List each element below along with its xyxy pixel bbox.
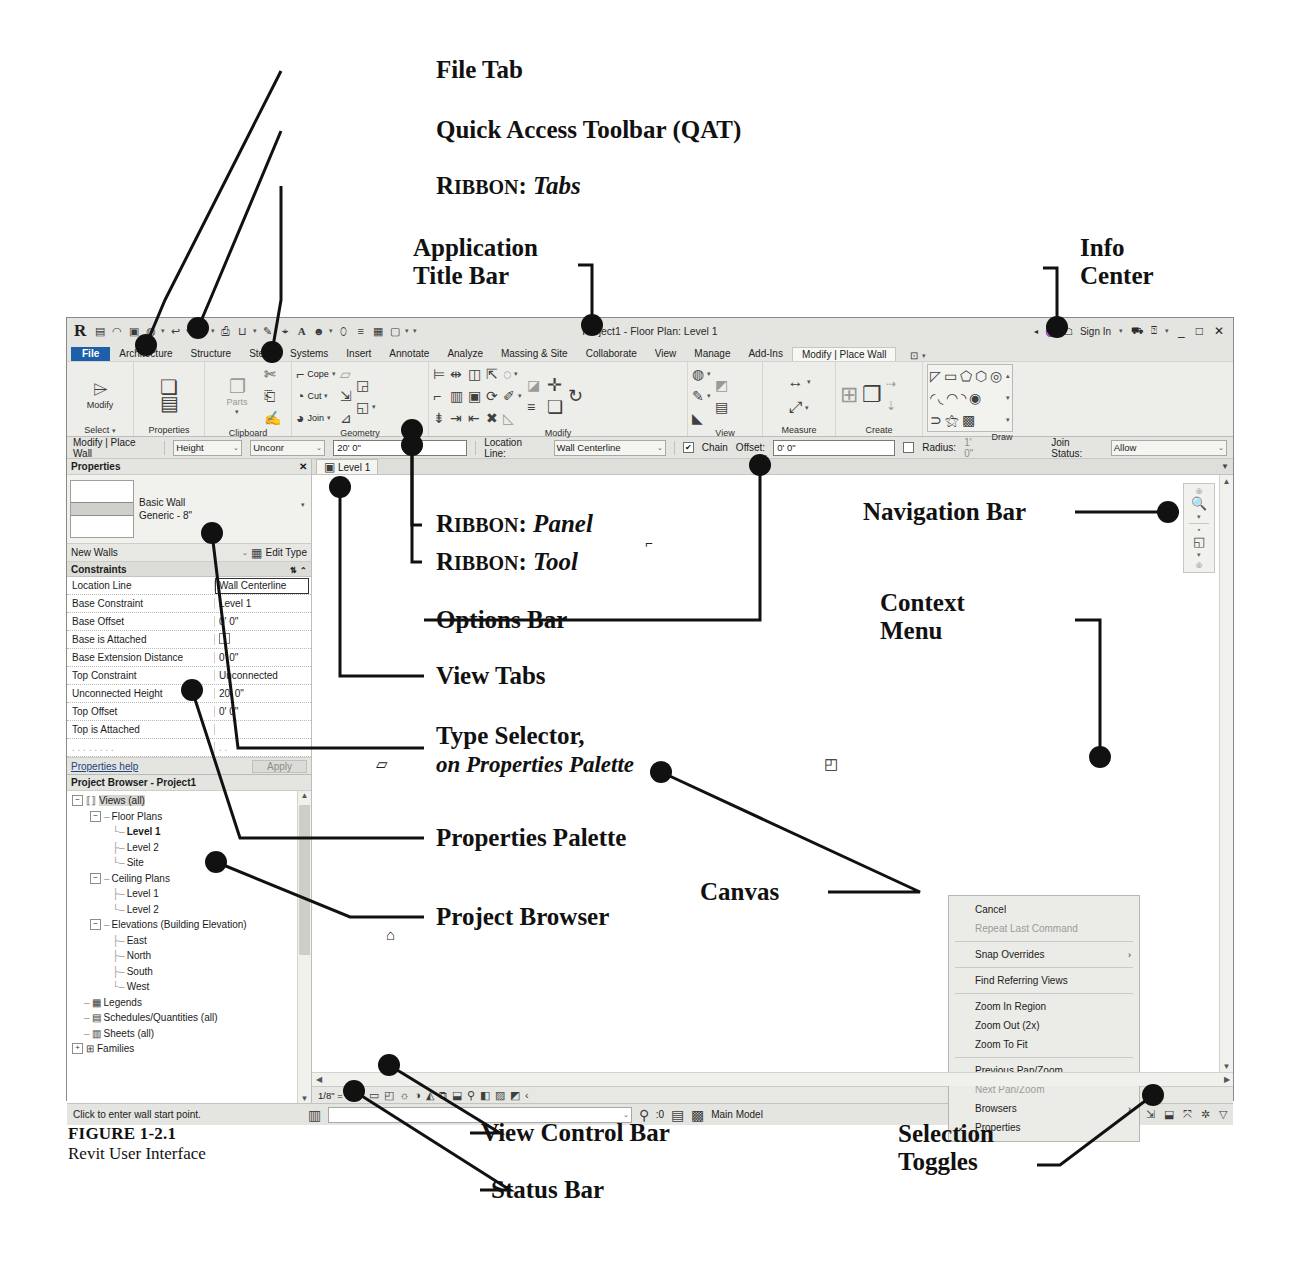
navigation-bar[interactable]: ◎ 🔍 ▾ ▪ ◱ ▾ ◎ xyxy=(1183,483,1215,573)
tab-architecture[interactable]: Architecture xyxy=(110,347,181,361)
tree-node-floor-plans[interactable]: −– Floor Plans xyxy=(70,809,311,825)
ribbon-tab-strip[interactable]: File Architecture Structure Steel System… xyxy=(67,344,1233,361)
zoom-icon[interactable]: 🔍 xyxy=(1191,497,1207,511)
wall-opening-icon[interactable]: ◺ xyxy=(503,411,514,425)
tree-node-legends[interactable]: –▦ Legends xyxy=(70,995,311,1011)
zoom-dropdown-icon[interactable]: ▾ xyxy=(1197,513,1201,521)
show-hidden-icon[interactable]: ◣ xyxy=(692,411,703,425)
sync-icon[interactable]: ⊔ xyxy=(235,324,250,339)
paint-icon[interactable]: ⊿ xyxy=(340,411,352,425)
window-buttons[interactable]: _ □ ✕ xyxy=(1178,324,1233,338)
pin-icon[interactable]: ◌ xyxy=(503,367,511,381)
measure-icon[interactable]: ✎ xyxy=(260,324,275,339)
tab-add-ins[interactable]: Add-Ins xyxy=(739,347,791,361)
property-row[interactable]: Top is Attached xyxy=(67,721,311,739)
tab-collaborate[interactable]: Collaborate xyxy=(577,347,646,361)
design-options-icon[interactable]: ▩ xyxy=(691,1108,704,1122)
tree-node-east[interactable]: ├–East xyxy=(70,933,311,949)
scroll-down-arrow[interactable]: ▼ xyxy=(298,1094,311,1103)
copy-element-icon[interactable]: ❏ xyxy=(547,400,563,414)
expander-icon[interactable]: − xyxy=(90,919,101,930)
properties-help-link[interactable]: Properties help xyxy=(71,761,138,772)
cut-scissors-icon[interactable]: ✄ xyxy=(264,367,276,381)
undo-icon[interactable]: ↩ xyxy=(168,324,183,339)
cut-geometry-icon[interactable]: ◔ xyxy=(296,389,304,403)
tab-modify-place-wall[interactable]: Modify | Place Wall xyxy=(792,347,896,361)
create-part-icon[interactable]: ⇢ xyxy=(886,377,896,391)
expander-icon[interactable]: + xyxy=(72,1043,83,1054)
expander-icon[interactable]: − xyxy=(90,811,101,822)
height-depth-select[interactable]: Height⌄ xyxy=(173,440,242,456)
lock-3d-view-icon[interactable]: ⚲ xyxy=(467,1088,475,1102)
array-icon[interactable]: ▥ xyxy=(450,389,463,403)
tab-annotate[interactable]: Annotate xyxy=(380,347,438,361)
user-avatar-icon[interactable]: ☖ xyxy=(1064,326,1073,337)
tree-node-ceiling-level-1[interactable]: ├–Level 1 xyxy=(70,886,311,902)
tab-structure[interactable]: Structure xyxy=(182,347,241,361)
crop-view-icon[interactable]: ⧉ xyxy=(439,1088,447,1102)
open-icon[interactable]: ◠ xyxy=(109,324,124,339)
visual-style-icon[interactable]: ◰ xyxy=(384,1088,394,1102)
section-icon[interactable]: ⬯ xyxy=(336,324,351,339)
create-group-icon[interactable]: ❐ xyxy=(862,388,882,402)
select-pinned-elements-icon[interactable]: ⇲ xyxy=(1146,1108,1155,1121)
property-value[interactable]: Unconnected xyxy=(215,670,311,681)
save-icon[interactable]: ▣ xyxy=(126,324,141,339)
join-status-select[interactable]: Allow⌄ xyxy=(1111,440,1227,456)
hide-element-icon[interactable]: ✎ xyxy=(692,389,704,403)
line-icon[interactable]: ◸ xyxy=(930,369,941,383)
tree-node-ceiling-plans[interactable]: −– Ceiling Plans xyxy=(70,871,311,887)
mirror-draw-axis-icon[interactable]: ⇱ xyxy=(486,367,498,381)
shadows-off-icon[interactable]: ◑ xyxy=(414,1088,421,1102)
arc-center-ends-icon[interactable]: ◟ xyxy=(938,391,943,405)
menu-item-find-referring-views[interactable]: Find Referring Views xyxy=(949,971,1139,990)
type-selector[interactable]: Basic Wall Generic - 8" ▾ xyxy=(67,475,311,544)
detail-level-coarse-icon[interactable]: ▭ xyxy=(369,1088,379,1102)
draw-gallery[interactable]: ◸ ▭ ⬠ ⬡ ◎ ◜ ◟ ◠ ◝ ◉ xyxy=(927,364,1013,432)
tab-manage[interactable]: Manage xyxy=(685,347,739,361)
property-row[interactable]: Base is Attached xyxy=(67,631,311,649)
save-as-icon[interactable]: ◍ xyxy=(143,324,158,339)
circle-icon[interactable]: ◎ xyxy=(990,369,1002,383)
active-workset-icon[interactable]: ✲ xyxy=(1201,1108,1210,1121)
tree-node-elevations[interactable]: −– Elevations (Building Elevation) xyxy=(70,917,311,933)
expander-icon[interactable]: − xyxy=(90,873,101,884)
switch-join-icon[interactable]: ◱ xyxy=(356,400,369,414)
view-scale[interactable]: 1/8" = 1'-0" xyxy=(318,1090,364,1101)
close-hidden-icon[interactable]: ▦ xyxy=(370,324,385,339)
tree-node-south[interactable]: ├–South xyxy=(70,964,311,980)
menu-item-browsers[interactable]: Browsers› xyxy=(949,1099,1139,1118)
unpin-icon[interactable]: ⟳ xyxy=(486,389,498,403)
minimize-button[interactable]: _ xyxy=(1178,324,1185,338)
menu-item-cancel[interactable]: Cancel xyxy=(949,900,1139,919)
tree-node-views-all[interactable]: − ⟦⟧ Views (all) xyxy=(70,793,311,809)
tab-steel[interactable]: Steel xyxy=(240,347,281,361)
location-line-select[interactable]: Wall Centerline⌄ xyxy=(554,440,666,456)
fillet-arc-icon[interactable]: ◝ xyxy=(961,391,966,405)
steering-wheel-icon[interactable]: ◎ xyxy=(1196,487,1202,495)
customize-qat-icon[interactable]: ▾ xyxy=(413,327,417,335)
parts-tool[interactable]: ❐ Parts ▾ xyxy=(215,377,259,416)
project-browser-tree[interactable]: − ⟦⟧ Views (all) −– Floor Plans └–Level … xyxy=(67,791,311,1103)
split-element-icon[interactable]: ⇟ xyxy=(433,411,445,425)
tab-massing-site[interactable]: Massing & Site xyxy=(492,347,577,361)
property-checkbox[interactable] xyxy=(219,633,230,644)
measure-along-element-icon[interactable]: ⤢ xyxy=(789,401,802,415)
split-face-icon[interactable]: ⇲ xyxy=(340,389,352,403)
offset-input[interactable]: 0' 0" xyxy=(773,440,895,456)
arc-3-point-icon[interactable]: ◜ xyxy=(930,391,935,405)
scroll-up-arrow[interactable]: ▲ xyxy=(1220,475,1233,488)
offset-icon[interactable]: ⇹ xyxy=(450,367,462,381)
tab-view[interactable]: View xyxy=(646,347,686,361)
trim-extend-corner-icon[interactable]: ⌐ xyxy=(433,389,441,403)
polygon-circumscribed-icon[interactable]: ⬡ xyxy=(975,369,987,383)
tab-systems[interactable]: Systems xyxy=(281,347,337,361)
sign-in-link[interactable]: Sign In xyxy=(1080,326,1111,337)
scroll-left-arrow[interactable]: ◀ xyxy=(312,1073,325,1086)
cart-icon[interactable]: ⛟ xyxy=(1131,325,1144,338)
binoculars-icon[interactable]: ♒ xyxy=(1045,326,1057,337)
chain-checkbox[interactable]: ✔ xyxy=(683,442,694,453)
view-tabs[interactable]: ▣ Level 1 ▼ xyxy=(312,459,1233,475)
expander-icon[interactable]: − xyxy=(72,795,83,806)
panel-title-select[interactable]: Select ▾ xyxy=(71,425,129,436)
